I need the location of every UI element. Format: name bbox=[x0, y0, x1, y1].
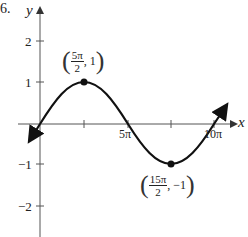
graph-canvas bbox=[0, 0, 248, 237]
paren-open: ( bbox=[140, 170, 149, 200]
x-axis-label: x bbox=[238, 115, 245, 130]
max-x-fraction: 5π 2 bbox=[71, 49, 84, 74]
paren-close: ) bbox=[96, 46, 105, 76]
sine-curve-left-extension bbox=[30, 124, 40, 140]
sine-curve bbox=[40, 82, 226, 164]
min-x-fraction: 15π 2 bbox=[149, 173, 168, 198]
y-tick-neg2: −2 bbox=[18, 200, 32, 213]
y-tick-1: 1 bbox=[25, 76, 32, 89]
min-point bbox=[168, 161, 175, 168]
y-tick-neg1: −1 bbox=[18, 158, 32, 171]
x-tick-10pi: 10π bbox=[204, 128, 222, 140]
x-tick-5pi: 5π bbox=[119, 128, 131, 140]
y-axis-label: y bbox=[26, 3, 33, 18]
paren-close: ) bbox=[186, 170, 195, 200]
problem-number: 6. bbox=[0, 2, 11, 16]
max-point bbox=[81, 79, 88, 86]
paren-open: ( bbox=[62, 46, 71, 76]
max-point-label: ( 5π 2 , 1 ) bbox=[62, 46, 104, 76]
min-point-label: ( 15π 2 , −1 ) bbox=[140, 170, 195, 200]
y-tick-2: 2 bbox=[25, 35, 32, 48]
